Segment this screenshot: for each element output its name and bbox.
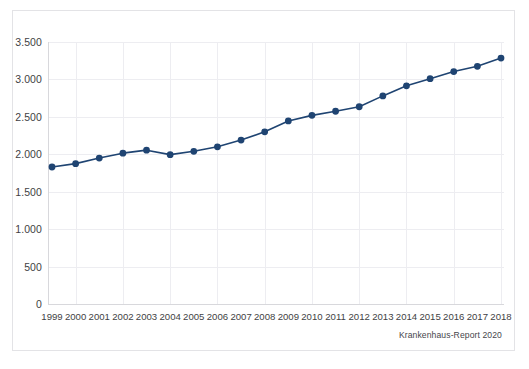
data-point-marker (498, 55, 505, 62)
data-point-marker (261, 128, 268, 135)
x-axis-tick-label: 2004 (159, 311, 180, 322)
data-point-marker (309, 112, 316, 119)
data-point-marker (474, 63, 481, 70)
x-axis-tick-label: 2012 (349, 311, 370, 322)
data-point-marker (285, 118, 292, 125)
x-axis-tick-label: 2015 (419, 311, 440, 322)
line-series (49, 42, 504, 304)
y-axis-tick-label: 3.500 (15, 36, 42, 48)
y-axis-tick-label: 3.000 (15, 73, 42, 85)
x-axis-tick-label: 2011 (325, 311, 346, 322)
x-axis-tick-label: 2007 (230, 311, 251, 322)
x-axis-tick-label: 2018 (490, 311, 511, 322)
x-axis-tick-label: 2010 (301, 311, 322, 322)
x-axis-tick-label: 2000 (65, 311, 86, 322)
data-point-marker (238, 137, 245, 144)
x-axis-tick-label: 2008 (254, 311, 275, 322)
data-point-marker (214, 143, 221, 150)
plot-area: 05001.0001.5002.0002.5003.0003.500 19992… (48, 42, 504, 305)
data-point-marker (143, 147, 150, 154)
chart-card: 05001.0001.5002.0002.5003.0003.500 19992… (12, 10, 515, 351)
data-point-marker (332, 108, 339, 115)
data-point-marker (403, 82, 410, 89)
series-line (52, 58, 501, 167)
x-axis-tick-label: 2009 (278, 311, 299, 322)
y-axis-tick-label: 500 (24, 261, 42, 273)
data-point-marker (356, 103, 363, 110)
y-axis-tick-label: 2.500 (15, 111, 42, 123)
x-axis-tick-label: 2001 (89, 311, 110, 322)
y-axis-tick-label: 1.500 (15, 186, 42, 198)
data-point-marker (96, 155, 103, 162)
x-axis-tick-label: 2002 (112, 311, 133, 322)
x-axis-tick-label: 2005 (183, 311, 204, 322)
x-axis-tick-label: 2003 (136, 311, 157, 322)
data-point-marker (72, 160, 79, 167)
x-axis-tick-label: 2013 (372, 311, 393, 322)
x-axis-tick-label: 1999 (41, 311, 62, 322)
data-point-marker (190, 148, 197, 155)
data-point-marker (427, 75, 434, 82)
y-axis-tick-label: 0 (36, 298, 42, 310)
data-point-marker (49, 164, 56, 171)
y-axis-tick-label: 2.000 (15, 148, 42, 160)
chart-plot-wrapper: 05001.0001.5002.0002.5003.0003.500 19992… (13, 11, 516, 352)
x-axis-tick-label: 2014 (396, 311, 417, 322)
data-point-marker (379, 92, 386, 99)
data-point-marker (167, 151, 174, 158)
data-point-marker (119, 150, 126, 157)
x-axis-tick-label: 2006 (207, 311, 228, 322)
source-note: Krankenhaus-Report 2020 (399, 330, 502, 340)
x-axis-tick-label: 2016 (443, 311, 464, 322)
x-axis-tick-label: 2017 (467, 311, 488, 322)
y-axis-tick-label: 1.000 (15, 223, 42, 235)
data-point-marker (450, 68, 457, 75)
